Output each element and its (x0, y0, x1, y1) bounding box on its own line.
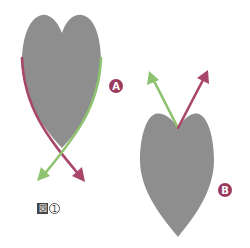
shape-a-heart (22, 15, 101, 148)
badge-b-label: B (221, 185, 229, 196)
caption-prefix: 図 (37, 203, 48, 214)
shape-a-group: A (22, 15, 123, 182)
figure-caption: 図 1 (37, 203, 60, 214)
shape-b-teardrop (140, 114, 214, 237)
caption-number: 1 (49, 203, 60, 214)
shape-b-group: B (140, 70, 232, 237)
arrowhead-b-green-icon (147, 71, 159, 85)
badge-a-label: A (112, 81, 120, 92)
